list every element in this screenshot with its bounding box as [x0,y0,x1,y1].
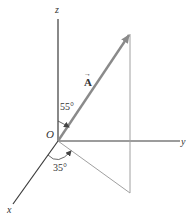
vector-a-label: A [84,76,92,88]
vector-diagram: z y x O → A 55° 35° [0,0,191,222]
x-axis [13,141,58,204]
z-axis-label: z [54,4,59,15]
vector-a [58,35,129,141]
y-axis-label: y [180,136,186,147]
angle-arc-55 [58,121,69,127]
origin-label: O [46,128,54,140]
angle-label-35: 35° [53,162,67,173]
xy-projection-line [58,141,130,193]
angle-label-55: 55° [60,101,74,112]
x-axis-label: x [6,204,12,215]
angle-arc-35 [48,151,71,160]
